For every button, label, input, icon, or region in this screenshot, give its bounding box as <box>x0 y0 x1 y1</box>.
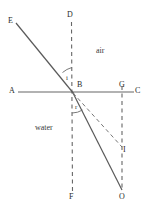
point-label-F: F <box>69 193 73 201</box>
point-label-C: C <box>135 87 140 95</box>
angle-label-refraction: r <box>75 103 77 111</box>
point-label-G: G <box>119 81 125 89</box>
angle-label-incidence: i <box>66 74 68 82</box>
incident-ray-EB <box>16 23 74 94</box>
construction-line-BI <box>73 93 122 147</box>
point-label-A: A <box>9 87 15 95</box>
normal-line-DF <box>72 22 73 192</box>
point-label-B: B <box>77 81 82 89</box>
refraction-diagram: E D A B G C F I O air water i r <box>0 0 147 210</box>
point-label-E: E <box>8 17 13 25</box>
medium-label-air: air <box>96 47 104 55</box>
refracted-ray-BO <box>73 93 122 190</box>
medium-label-water: water <box>35 124 53 132</box>
angle-arc-incidence <box>63 68 72 73</box>
point-label-O: O <box>119 193 125 201</box>
diagram-canvas <box>0 0 147 210</box>
point-label-D: D <box>67 11 73 19</box>
point-label-I: I <box>123 146 126 154</box>
angle-arc-refraction <box>72 110 82 113</box>
